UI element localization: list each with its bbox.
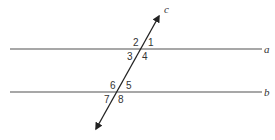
diagram-canvas: a b c 2 1 3 4 6 5 7 8 — [0, 0, 275, 140]
angle-7-label: 7 — [104, 94, 110, 105]
angle-4-label: 4 — [142, 51, 148, 62]
angle-1-label: 1 — [148, 37, 154, 48]
angle-3-label: 3 — [127, 51, 133, 62]
line-a-label: a — [264, 43, 270, 55]
angle-5-label: 5 — [126, 80, 132, 91]
angle-6-label: 6 — [110, 80, 116, 91]
angle-2-label: 2 — [133, 37, 139, 48]
angle-8-label: 8 — [118, 94, 124, 105]
transversal-c — [96, 16, 159, 129]
transversal-c-label: c — [164, 3, 169, 15]
line-b-label: b — [264, 86, 270, 98]
